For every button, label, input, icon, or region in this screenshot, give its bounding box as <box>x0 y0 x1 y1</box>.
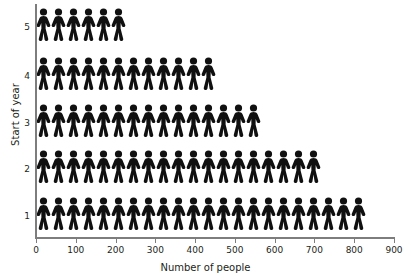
x-tick-label-100: 100 <box>56 245 96 256</box>
pictogram-row-3 <box>36 104 261 138</box>
person-icon <box>156 57 171 91</box>
person-icon <box>186 150 201 184</box>
x-tick-0 <box>36 237 37 243</box>
person-icon <box>156 104 171 138</box>
person-icon <box>186 57 201 91</box>
person-icon <box>111 104 126 138</box>
x-tick-700 <box>314 237 315 243</box>
person-icon <box>51 197 66 231</box>
person-icon <box>306 150 321 184</box>
person-icon <box>141 197 156 231</box>
person-icon <box>66 197 81 231</box>
x-tick-200 <box>116 237 117 243</box>
person-icon <box>36 104 51 138</box>
x-tick-label-800: 800 <box>334 245 374 256</box>
person-icon <box>336 197 351 231</box>
person-icon <box>66 150 81 184</box>
person-icon <box>81 150 96 184</box>
person-icon <box>246 104 261 138</box>
x-tick-300 <box>155 237 156 243</box>
x-tick-label-900: 900 <box>374 245 411 256</box>
person-icon <box>81 197 96 231</box>
person-icon <box>186 197 201 231</box>
person-icon <box>171 150 186 184</box>
person-icon <box>291 150 306 184</box>
person-icon <box>96 104 111 138</box>
person-icon <box>201 104 216 138</box>
person-icon <box>201 150 216 184</box>
person-icon <box>126 197 141 231</box>
person-icon <box>126 57 141 91</box>
person-icon <box>36 197 51 231</box>
person-icon <box>96 150 111 184</box>
person-icon <box>246 197 261 231</box>
person-icon <box>141 150 156 184</box>
person-icon <box>96 197 111 231</box>
person-icon <box>216 150 231 184</box>
person-icon <box>321 197 336 231</box>
pictogram-row-2 <box>36 150 321 184</box>
pictogram-row-1 <box>36 197 366 231</box>
x-tick-400 <box>195 237 196 243</box>
person-icon <box>171 104 186 138</box>
person-icon <box>51 57 66 91</box>
person-icon <box>141 104 156 138</box>
person-icon <box>126 150 141 184</box>
x-tick-500 <box>235 237 236 243</box>
person-icon <box>156 150 171 184</box>
person-icon <box>66 57 81 91</box>
x-tick-800 <box>354 237 355 243</box>
person-icon <box>261 150 276 184</box>
person-icon <box>231 104 246 138</box>
x-tick-600 <box>275 237 276 243</box>
person-icon <box>216 104 231 138</box>
y-axis-title: Start of year <box>9 70 22 160</box>
person-icon <box>36 57 51 91</box>
person-icon <box>246 150 261 184</box>
person-icon <box>186 104 201 138</box>
y-tick-label-5: 5 <box>0 22 30 33</box>
person-icon <box>126 104 141 138</box>
person-icon <box>36 8 51 42</box>
x-tick-label-400: 400 <box>175 245 215 256</box>
person-icon <box>111 57 126 91</box>
person-icon <box>81 8 96 42</box>
x-tick-label-500: 500 <box>215 245 255 256</box>
person-icon <box>231 197 246 231</box>
person-icon <box>216 197 231 231</box>
x-tick-900 <box>394 237 395 243</box>
person-icon <box>201 197 216 231</box>
x-tick-100 <box>76 237 77 243</box>
person-icon <box>231 150 246 184</box>
pictogram-row-4 <box>36 57 216 91</box>
x-axis-title: Number of people <box>0 261 411 274</box>
person-icon <box>276 197 291 231</box>
person-icon <box>171 57 186 91</box>
person-icon <box>261 197 276 231</box>
pictogram-chart: 0100200300400500600700800900 54321 Numbe… <box>0 0 411 280</box>
person-icon <box>51 8 66 42</box>
person-icon <box>66 8 81 42</box>
y-tick-label-2: 2 <box>0 164 30 175</box>
person-icon <box>291 197 306 231</box>
x-tick-label-600: 600 <box>255 245 295 256</box>
person-icon <box>351 197 366 231</box>
x-tick-label-0: 0 <box>16 245 56 256</box>
person-icon <box>171 197 186 231</box>
person-icon <box>276 150 291 184</box>
person-icon <box>306 197 321 231</box>
person-icon <box>81 104 96 138</box>
person-icon <box>111 8 126 42</box>
person-icon <box>51 104 66 138</box>
person-icon <box>51 150 66 184</box>
person-icon <box>66 104 81 138</box>
x-axis-line <box>35 237 394 239</box>
person-icon <box>81 57 96 91</box>
person-icon <box>111 197 126 231</box>
y-tick-label-1: 1 <box>0 211 30 222</box>
y-axis-line <box>35 4 37 237</box>
x-tick-label-700: 700 <box>294 245 334 256</box>
person-icon <box>96 8 111 42</box>
person-icon <box>141 57 156 91</box>
person-icon <box>156 197 171 231</box>
